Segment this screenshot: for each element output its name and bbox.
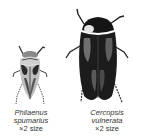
froghopper-icon xyxy=(62,8,134,104)
caption-scale: ×2 size xyxy=(76,125,138,133)
froghopper-icon xyxy=(10,44,50,108)
caption-philaenus: Philaenus spumarius ×2 size xyxy=(0,109,62,133)
insect-illustration-philaenus xyxy=(10,44,50,108)
cutoff-text-line xyxy=(0,0,96,3)
caption-cercopsis: Cercopsis vulnerata ×2 size xyxy=(76,109,138,133)
insect-illustration-cercopsis xyxy=(62,8,134,104)
caption-scale: ×2 size xyxy=(0,125,62,133)
